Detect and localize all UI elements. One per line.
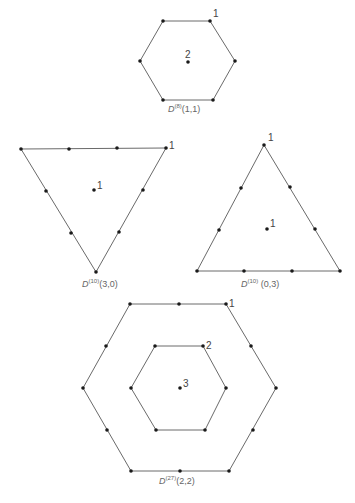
triangle-d10-03 (195, 143, 342, 273)
center-weight (186, 60, 190, 64)
label-d10-03: D(10) (0,3) (241, 278, 279, 289)
multiplicity-center-d8: 2 (185, 49, 191, 60)
triangle-d10-30 (19, 146, 168, 274)
label-d8: D(8)(1,1) (168, 103, 200, 114)
multiplicity-center-d10-30: 1 (97, 180, 103, 191)
multiplicity-center-d10-03: 1 (270, 218, 276, 229)
multiplicity-outer-d27: 1 (229, 298, 235, 309)
label-d27: D(27)(2,2) (159, 475, 195, 486)
multiplicity-outer-d8: 1 (213, 8, 219, 19)
multiplicity-center-d27: 3 (183, 378, 189, 389)
label-d10-30: D(10)(3,0) (82, 278, 118, 289)
multiplicity-outer-d10-03: 1 (268, 132, 274, 143)
weight-diagrams-canvas: 1 2 1 1 1 1 (0, 0, 355, 503)
multiplicity-inner-d27: 2 (206, 340, 212, 351)
multiplicity-outer-d10-30: 1 (169, 140, 175, 151)
hexagon-d27 (81, 302, 278, 473)
hexagon-d8 (138, 19, 237, 102)
